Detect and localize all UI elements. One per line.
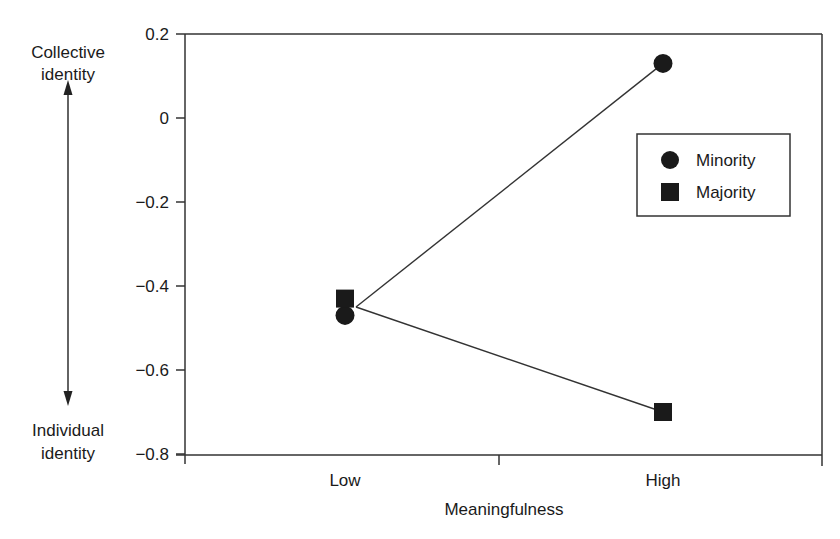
y-tick-label: 0.2 xyxy=(145,25,169,44)
legend-label-minority: Minority xyxy=(696,151,756,170)
legend-square-icon xyxy=(661,183,679,201)
marker-majority-high xyxy=(654,403,672,421)
x-tick-label-low: Low xyxy=(329,471,361,490)
data-series xyxy=(336,54,673,421)
x-tick-labels: LowHigh xyxy=(329,471,680,490)
y-tick-label: 0 xyxy=(160,109,169,128)
legend: Minority Majority xyxy=(637,134,790,216)
x-tick-label-high: High xyxy=(646,471,681,490)
series-line-minority xyxy=(356,63,663,307)
y-tick-label: −0.6 xyxy=(135,361,169,380)
legend-circle-icon xyxy=(661,151,679,169)
x-axis-title: Meaningfulness xyxy=(444,500,563,519)
y-ticks: 0.20−0.2−0.4−0.6−0.8 xyxy=(135,25,185,464)
y-tick-label: −0.8 xyxy=(135,445,169,464)
annotation-bottom-line2: identity xyxy=(41,444,95,463)
annotation-top-line1: Collective xyxy=(31,43,105,62)
marker-majority-low xyxy=(336,290,354,308)
interaction-line-chart: 0.20−0.2−0.4−0.6−0.8 LowHigh Meaningfuln… xyxy=(0,0,840,539)
plot-frame xyxy=(176,34,822,466)
arrow-down-icon xyxy=(64,391,73,406)
annotation-bottom-line1: Individual xyxy=(32,421,104,440)
identity-annotation: Collective identity Individual identity xyxy=(31,43,105,463)
y-tick-label: −0.4 xyxy=(135,277,169,296)
marker-minority-high xyxy=(654,54,673,73)
marker-minority-low xyxy=(336,306,355,325)
series-line-majority xyxy=(356,307,663,412)
y-tick-label: −0.2 xyxy=(135,193,169,212)
legend-label-majority: Majority xyxy=(696,183,756,202)
